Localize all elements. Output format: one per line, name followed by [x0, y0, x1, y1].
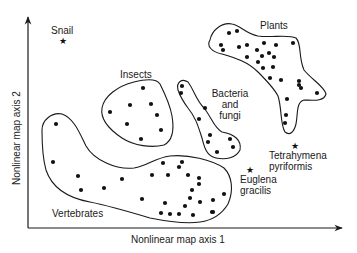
data-point-dot-icon: [180, 84, 184, 88]
data-point-dot-icon: [297, 79, 301, 83]
data-point-dot-icon: [272, 55, 276, 59]
data-point-dot-icon: [231, 145, 235, 149]
x-axis-label: Nonlinear map axis 1: [131, 234, 225, 245]
cluster-outline: [42, 114, 231, 223]
data-point-dot-icon: [283, 121, 287, 125]
data-point-dot-icon: [177, 212, 181, 216]
data-point-dot-icon: [197, 117, 201, 121]
data-point-dot-icon: [274, 43, 278, 47]
data-point-dot-icon: [198, 200, 202, 204]
singleton-label: Tetrahymenapyriformis: [269, 150, 327, 172]
data-point-dot-icon: [315, 91, 319, 95]
clusters-layer: PlantsInsectsBacteriaandfungiVertebrates: [42, 20, 326, 223]
singleton-label: Snail: [51, 25, 73, 36]
data-point-dot-icon: [262, 41, 266, 45]
data-point-dot-icon: [221, 48, 225, 52]
data-point-dot-icon: [161, 161, 165, 165]
data-point-dot-icon: [128, 103, 132, 107]
data-point-dot-icon: [54, 122, 58, 126]
data-point-dot-icon: [150, 173, 154, 177]
data-point-dot-icon: [159, 128, 163, 132]
singleton-label: Euglenagracilis: [240, 174, 277, 196]
data-point-dot-icon: [237, 45, 241, 49]
data-point-dot-icon: [76, 174, 80, 178]
data-point-dot-icon: [79, 188, 83, 192]
data-point-dot-icon: [108, 110, 112, 114]
data-point-dot-icon: [120, 177, 124, 181]
data-point-dot-icon: [51, 160, 55, 164]
data-point-dot-icon: [177, 165, 181, 169]
star-icon: ★: [59, 36, 67, 46]
data-point-dot-icon: [227, 31, 231, 35]
data-point-dot-icon: [166, 173, 170, 177]
data-point-dot-icon: [208, 133, 212, 137]
singleton-tetrahymena-pyriformis: ★Tetrahymenapyriformis: [269, 141, 327, 172]
singletons-layer: ★Snail★Euglenagracilis★Tetrahymenapyrifo…: [51, 25, 327, 196]
data-point-dot-icon: [197, 176, 201, 180]
data-point-dot-icon: [222, 192, 226, 196]
data-point-dot-icon: [285, 97, 289, 101]
data-point-dot-icon: [284, 113, 288, 117]
cluster-outline: [102, 80, 173, 147]
data-point-dot-icon: [168, 212, 172, 216]
data-point-dot-icon: [179, 91, 183, 95]
data-point-dot-icon: [197, 182, 201, 186]
data-point-dot-icon: [299, 86, 303, 90]
cluster-bacteria-and-fungi: Bacteriaandfungi: [178, 80, 249, 158]
cluster-vertebrates: Vertebrates: [42, 114, 231, 223]
data-point-dot-icon: [140, 197, 144, 201]
data-point-dot-icon: [190, 188, 194, 192]
data-point-dot-icon: [155, 113, 159, 117]
data-point-dot-icon: [141, 86, 145, 90]
data-point-dot-icon: [125, 122, 129, 126]
data-point-dot-icon: [191, 213, 195, 217]
cluster-label: Bacteriaandfungi: [212, 88, 249, 121]
data-point-dot-icon: [268, 76, 272, 80]
data-point-dot-icon: [279, 78, 283, 82]
data-point-dot-icon: [256, 60, 260, 64]
data-point-dot-icon: [271, 65, 275, 69]
data-point-dot-icon: [180, 160, 184, 164]
data-point-dot-icon: [255, 48, 259, 52]
data-point-dot-icon: [183, 204, 187, 208]
data-point-dot-icon: [215, 150, 219, 154]
data-point-dot-icon: [267, 51, 271, 55]
cluster-label: Insects: [120, 69, 152, 80]
data-point-dot-icon: [159, 211, 163, 215]
data-point-dot-icon: [219, 43, 223, 47]
data-point-dot-icon: [203, 106, 207, 110]
data-point-dot-icon: [139, 137, 143, 141]
singleton-snail: ★Snail: [51, 25, 73, 46]
data-point-dot-icon: [186, 173, 190, 177]
data-point-dot-icon: [245, 55, 249, 59]
data-point-dot-icon: [291, 41, 295, 45]
nonlinear-map-diagram: Nonlinear map axis 1 Nonlinear map axis …: [0, 0, 357, 253]
data-point-dot-icon: [260, 54, 264, 58]
data-point-dot-icon: [228, 137, 232, 141]
data-point-dot-icon: [163, 201, 167, 205]
data-point-dot-icon: [102, 186, 106, 190]
data-point-dot-icon: [188, 196, 192, 200]
data-point-dot-icon: [149, 102, 153, 106]
data-point-dot-icon: [235, 29, 239, 33]
cluster-label: Vertebrates: [52, 208, 103, 219]
cluster-insects: Insects: [102, 69, 173, 146]
data-point-dot-icon: [206, 140, 210, 144]
data-point-dot-icon: [211, 198, 215, 202]
data-point-dot-icon: [261, 66, 265, 70]
data-point-dot-icon: [211, 210, 215, 214]
y-axis-label: Nonlinear map axis 2: [11, 91, 22, 185]
data-point-dot-icon: [245, 43, 249, 47]
cluster-label: Plants: [260, 20, 288, 31]
